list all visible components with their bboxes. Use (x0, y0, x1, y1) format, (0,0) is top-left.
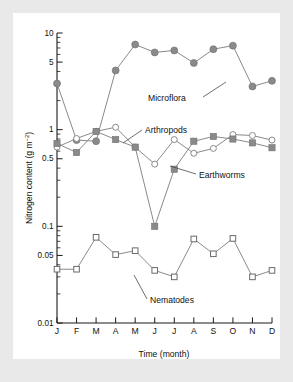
data-point (73, 149, 79, 155)
y-tick-label: 5 (49, 58, 54, 67)
data-point (171, 47, 178, 54)
data-point (152, 161, 158, 167)
data-series (54, 41, 276, 280)
data-point (54, 266, 60, 272)
y-tick-label: 0.01 (38, 319, 54, 328)
x-axis-ticks (57, 317, 272, 323)
data-point (132, 248, 138, 254)
data-point (229, 42, 236, 49)
data-point (152, 268, 158, 274)
y-axis-tick-labels: 10510.50.10.050.01 (38, 29, 54, 328)
data-point (93, 128, 99, 134)
x-tick-label: M (132, 326, 139, 336)
y-tick-label: 0.1 (42, 222, 54, 231)
y-axis-title: Nitrogen content (g m−2) (24, 132, 34, 224)
data-point (211, 251, 217, 257)
data-point (191, 236, 197, 242)
data-point (74, 266, 80, 272)
nematodes-label: Nematodes (150, 295, 194, 305)
data-point (132, 144, 138, 150)
microflora-label: Microflora (148, 93, 186, 103)
x-tick-label: A (113, 326, 119, 336)
markers-nematodes (54, 235, 275, 280)
data-point (249, 140, 255, 146)
data-point (269, 145, 275, 151)
nitrogen-content-line-chart: 10510.50.10.050.01 JFMAMJJASOND Nitrogen… (0, 0, 293, 382)
x-tick-label: O (230, 326, 237, 336)
x-tick-label: F (74, 326, 79, 336)
data-point (191, 150, 197, 156)
x-tick-label: M (93, 326, 100, 336)
microflora-leader (203, 82, 226, 97)
x-tick-label: S (210, 326, 216, 336)
x-tick-label: J (55, 326, 59, 336)
series-nematodes (57, 237, 272, 277)
data-point (54, 140, 60, 146)
data-point (269, 77, 276, 84)
data-point (74, 136, 80, 142)
y-tick-label: 0.05 (38, 251, 54, 260)
series-line-nematodes (57, 237, 272, 277)
data-point (210, 46, 217, 53)
data-point (190, 59, 197, 66)
data-point (210, 133, 216, 139)
y-axis-ticks (57, 33, 63, 323)
data-point (113, 252, 119, 258)
arthropods-label: Arthropods (145, 125, 187, 135)
data-point (113, 136, 119, 142)
x-tick-label: J (153, 326, 157, 336)
x-axis-tick-labels: JFMAMJJASOND (55, 326, 275, 336)
data-point (132, 41, 139, 48)
x-tick-label: N (249, 326, 255, 336)
figure-container: 10510.50.10.050.01 JFMAMJJASOND Nitrogen… (0, 0, 293, 382)
x-tick-label: J (172, 326, 176, 336)
y-tick-label: 1 (49, 125, 54, 134)
x-tick-label: D (269, 326, 275, 336)
data-point (171, 274, 177, 280)
y-tick-label: 10 (44, 29, 54, 38)
arthropods-leader (123, 130, 142, 143)
data-point (230, 236, 236, 242)
data-point (249, 133, 255, 139)
data-point (191, 138, 197, 144)
data-point (112, 67, 119, 74)
data-point (269, 137, 275, 143)
x-tick-label: A (191, 326, 197, 336)
data-point (269, 268, 275, 274)
annotation-leaders (123, 82, 226, 299)
data-point (152, 223, 158, 229)
data-point (230, 136, 236, 142)
data-point (250, 274, 256, 280)
data-point (54, 80, 61, 87)
data-point (93, 138, 100, 145)
data-point (171, 137, 177, 143)
earthworms-label: Earthworms (199, 170, 245, 180)
y-tick-label: 0.5 (42, 154, 54, 163)
data-point (151, 49, 158, 56)
data-point (210, 145, 216, 151)
nematodes-leader (134, 275, 147, 299)
data-point (113, 124, 119, 130)
data-point (93, 235, 99, 241)
data-point (249, 83, 256, 90)
x-axis-title: Time (month) (139, 349, 190, 359)
